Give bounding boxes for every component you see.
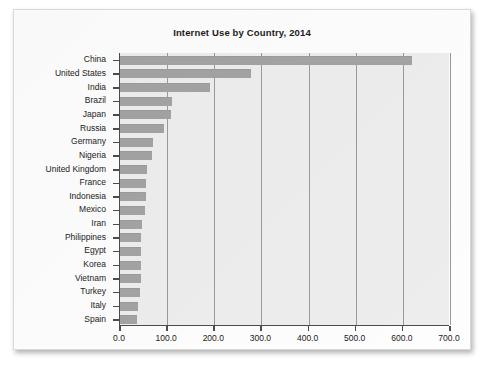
x-axis-tick (449, 326, 451, 331)
bar (120, 206, 145, 215)
plot-wrapper: 0.0100.0200.0300.0400.0500.0600.0700.0 (119, 53, 449, 326)
bar (120, 138, 153, 147)
y-axis-label: India (88, 81, 106, 94)
gridline (356, 53, 357, 325)
bar (120, 315, 137, 324)
y-axis-label: Indonesia (69, 190, 106, 203)
plot-area (119, 53, 449, 326)
y-axis-label: Brazil (85, 94, 106, 107)
bar (120, 288, 140, 297)
y-axis-category-labels: ChinaUnited StatesIndiaBrazilJapanRussia… (14, 53, 114, 326)
x-axis-tick (308, 326, 310, 331)
y-axis-label: Vietnam (75, 272, 106, 285)
gridline (450, 53, 451, 325)
bar (120, 192, 146, 201)
x-axis-tick (166, 326, 168, 331)
gridline (403, 53, 404, 325)
x-axis-label: 700.0 (419, 333, 479, 343)
bar (120, 97, 172, 106)
y-axis-label: Germany (71, 135, 106, 148)
y-axis-label: Italy (90, 299, 106, 312)
y-axis-label: Philippines (65, 231, 106, 244)
bar (120, 274, 141, 283)
y-axis-label: France (80, 176, 106, 189)
bar (120, 83, 210, 92)
gridline (261, 53, 262, 325)
bar (120, 247, 141, 256)
bar (120, 179, 146, 188)
bar (120, 233, 141, 242)
bar (120, 302, 138, 311)
y-axis-label: Russia (80, 122, 106, 135)
y-axis-label: Egypt (84, 244, 106, 257)
y-axis-label: China (84, 53, 106, 66)
y-axis-label: United States (55, 67, 106, 80)
gridline (214, 53, 215, 325)
gridline (167, 53, 168, 325)
bar (120, 69, 251, 78)
y-axis-label: United Kingdom (46, 163, 106, 176)
bar (120, 261, 141, 270)
chart-title: Internet Use by Country, 2014 (14, 27, 470, 38)
x-axis-tick (402, 326, 404, 331)
bar (120, 56, 412, 65)
y-axis-label: Turkey (80, 285, 106, 298)
bar (120, 110, 171, 119)
chart-card: Internet Use by Country, 2014 ChinaUnite… (13, 9, 471, 350)
x-axis-tick (260, 326, 262, 331)
bar (120, 124, 164, 133)
x-axis-tick (119, 326, 121, 331)
bar (120, 151, 152, 160)
y-axis-label: Korea (83, 258, 106, 271)
y-axis-label: Japan (83, 108, 106, 121)
y-axis-label: Mexico (79, 203, 106, 216)
gridline (309, 53, 310, 325)
y-axis-label: Iran (91, 217, 106, 230)
y-axis-label: Nigeria (79, 149, 106, 162)
y-axis-label: Spain (84, 313, 106, 326)
bar (120, 165, 147, 174)
page-background: Internet Use by Country, 2014 ChinaUnite… (0, 0, 494, 369)
x-axis-tick (355, 326, 357, 331)
bar (120, 220, 142, 229)
x-axis-tick (213, 326, 215, 331)
